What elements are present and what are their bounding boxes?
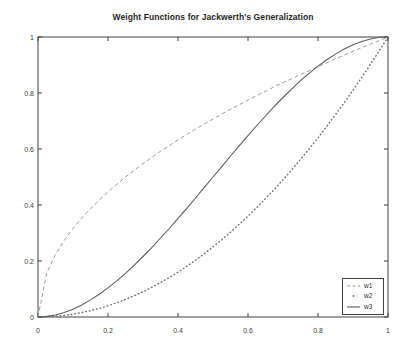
legend-dashed-line-sample — [346, 282, 361, 290]
legend-label-w1: w1 — [364, 283, 372, 290]
x-tick-label: 1 — [386, 327, 390, 334]
legend-solid-line-sample — [346, 303, 361, 311]
y-tick-label: 0.6 — [24, 146, 34, 153]
legend-item-w2: w2 — [346, 292, 380, 301]
legend-label-w2: w2 — [364, 293, 372, 300]
y-tick-label: 0 — [30, 314, 34, 321]
legend-item-w1: w1 — [346, 282, 380, 291]
x-tick-label: 0.4 — [173, 327, 183, 334]
y-tick-label: 1 — [30, 34, 34, 41]
legend-label-w3: w3 — [364, 304, 372, 311]
legend-dotted-line-sample — [346, 292, 361, 300]
x-tick-label: 0 — [36, 327, 40, 334]
series-curve-w3 — [38, 37, 388, 317]
figure-window: Weight Functions for Jackwerth's General… — [0, 0, 403, 357]
y-tick-label: 0.8 — [24, 90, 34, 97]
legend: w1w2w3 — [342, 278, 384, 315]
x-tick-label: 0.2 — [103, 327, 113, 334]
x-tick-label: 0.6 — [243, 327, 253, 334]
y-tick-label: 0.2 — [24, 258, 34, 265]
legend-item-w3: w3 — [346, 302, 380, 311]
y-tick-label: 0.4 — [24, 202, 34, 209]
legend-dot-marker — [353, 296, 355, 298]
x-tick-label: 0.8 — [313, 327, 323, 334]
